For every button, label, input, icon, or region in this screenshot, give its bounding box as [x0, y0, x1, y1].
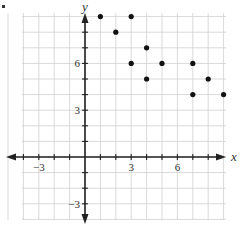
- data-point: [129, 61, 134, 66]
- y-tick-label: 3: [75, 104, 81, 116]
- data-point: [98, 14, 103, 19]
- data-point: [144, 76, 149, 81]
- data-point: [206, 76, 211, 81]
- data-point: [159, 61, 164, 66]
- data-point: [190, 61, 195, 66]
- data-point: [190, 92, 195, 97]
- data-point: [113, 30, 118, 35]
- y-axis-label: y: [80, 0, 88, 14]
- x-tick-label: 6: [175, 161, 181, 173]
- data-point: [144, 45, 149, 50]
- scatter-plot: −336−336 x y: [0, 0, 241, 230]
- x-tick-label: −3: [33, 161, 45, 173]
- data-point: [221, 92, 226, 97]
- x-axis-left-arrow-icon: [6, 154, 16, 161]
- grid-lines: [8, 13, 226, 220]
- y-axis-up-arrow-icon: [82, 13, 89, 23]
- x-axis-right-arrow-icon: [216, 154, 226, 161]
- tick-labels: −336−336: [33, 57, 181, 209]
- x-tick-label: 3: [128, 161, 134, 173]
- x-axis-label: x: [230, 149, 237, 164]
- y-tick-label: 6: [75, 57, 81, 69]
- data-point: [129, 14, 134, 19]
- y-tick-label: −3: [68, 198, 80, 210]
